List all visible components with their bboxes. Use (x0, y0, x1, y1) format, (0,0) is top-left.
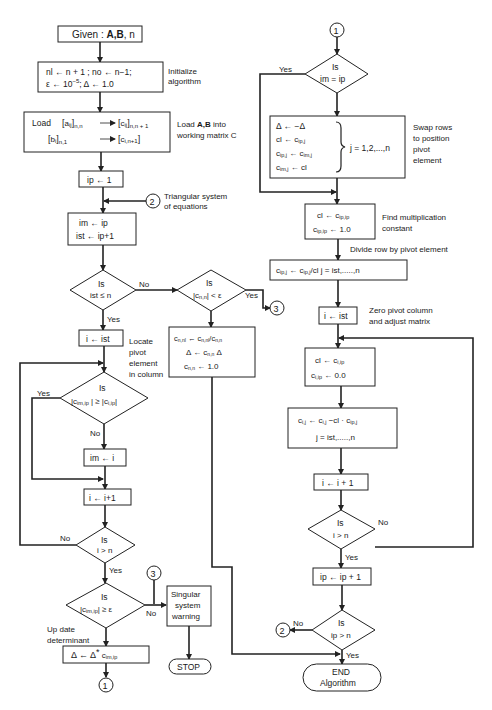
svg-text:2: 2 (280, 626, 285, 636)
svg-text:Is: Is (206, 278, 213, 288)
svg-text:Yes: Yes (345, 553, 358, 562)
svg-text:constant: constant (382, 224, 413, 233)
svg-text:Load: Load (32, 118, 51, 128)
svg-text:ip ← ip + 1: ip ← ip + 1 (320, 572, 361, 582)
svg-text:Yes: Yes (107, 315, 120, 324)
svg-text:ip ← 1: ip ← 1 (87, 175, 112, 185)
multiplication-note: Find multiplication (382, 213, 446, 222)
svg-text:Given : A,B, n: Given : A,B, n (72, 29, 135, 40)
svg-text:Is: Is (101, 592, 108, 602)
svg-text:Yes: Yes (109, 566, 122, 575)
load-matrix-box: Load [aij]n,n [cij]n,n + 1 [bi]n,1 [ci,n… (24, 112, 170, 152)
decision-ip-gt-n: Is ip > n (312, 610, 375, 650)
svg-text:j = 1,2,...,n: j = 1,2,...,n (349, 143, 390, 153)
svg-text:Yes: Yes (245, 291, 258, 300)
svg-text:No: No (293, 619, 304, 628)
zero-pivot-box: cl ← ci,ip ci,ip ← 0.0 (305, 348, 375, 386)
i-increment-right-box: i ← i + 1 (314, 474, 368, 490)
svg-text:No: No (60, 534, 71, 543)
svg-text:working matrix C: working matrix C (176, 131, 237, 140)
svg-text:determinant: determinant (47, 636, 90, 645)
connector-3-in: 3 (147, 566, 161, 580)
ip-init-box: ip ← 1 (79, 171, 123, 187)
multiplication-constant-box: cl ← cip,ip cip,ip ← 1.0 (305, 204, 375, 239)
svg-text:3: 3 (274, 304, 279, 314)
set-im-box: im ← ip ist ← ip+1 (68, 213, 136, 245)
svg-text:i ← i + 1: i ← i + 1 (322, 478, 354, 488)
i-ist-right-box: i ← ist (319, 307, 357, 324)
svg-text:pivot: pivot (129, 348, 147, 357)
decision-i-gt-n-left: Is i > n (76, 527, 135, 563)
svg-text:ci,j ← ci,j −cl · cip,j: ci,j ← ci,j −cl · cip,j (298, 416, 357, 425)
decision-pivot-compare: Is |cim,ip | ≥ |ci,ip| (60, 372, 148, 424)
svg-text:ε ← 10−5; Δ ← 1.0: ε ← 10−5; Δ ← 1.0 (46, 78, 114, 89)
initialize-box: nl ← n + 1 ; no ← n−1; ε ← 10−5; Δ ← 1.0 (38, 62, 163, 92)
svg-text:1: 1 (334, 26, 339, 36)
svg-text:Is: Is (99, 383, 106, 393)
decision-ist-le-n: Is ist ≤ n (70, 270, 136, 310)
load-note: Load A,B into (177, 120, 226, 129)
i-increment-box: i ← i+1 (84, 489, 131, 505)
svg-text:ist ≤ n: ist ≤ n (90, 291, 111, 300)
svg-text:i ← i+1: i ← i+1 (89, 493, 116, 503)
svg-text:cip,j ← cip,j/cl j = ist,...: cip,j ← cip,j/cl j = ist,.....,n (276, 266, 360, 275)
svg-text:Δ ← −Δ: Δ ← −Δ (276, 121, 305, 131)
connector-1-out: 1 (99, 678, 113, 692)
connector-3-out: 3 (270, 301, 284, 315)
svg-text:i ← ist: i ← ist (324, 311, 348, 321)
singular-warning-box: Singular system warning (167, 586, 211, 626)
svg-text:No: No (90, 429, 101, 438)
connector-2-in: 2 (146, 194, 160, 208)
svg-text:of equations: of equations (164, 202, 208, 211)
svg-text:pivot: pivot (413, 145, 431, 154)
svg-text:Is: Is (101, 535, 108, 545)
svg-text:ip > n: ip > n (331, 631, 351, 640)
svg-text:Yes: Yes (279, 65, 292, 74)
svg-text:2: 2 (150, 197, 155, 207)
update-note: Up date (47, 625, 76, 634)
svg-text:to position: to position (413, 134, 449, 143)
svg-text:Is: Is (98, 279, 105, 289)
locate-note: Locate (129, 337, 154, 346)
svg-text:nl ← n + 1 ; no ← n−1;: nl ← n + 1 ; no ← n−1; (46, 67, 132, 77)
stop-terminator: STOP (169, 659, 211, 674)
swap-note: Swap rows (413, 123, 452, 132)
ip-increment-box: ip ← ip + 1 (313, 568, 371, 585)
final-row-box: cn,nl ← cn,nl/cn,n Δ ← cn,n Δ cn,n ← 1.0 (169, 327, 255, 377)
svg-text:Is: Is (338, 618, 345, 628)
swap-rows-box: Δ ← −Δ cl ← cip,j cip,j ← cim,j cim,j ← … (270, 116, 405, 178)
zero-note: Zero pivot column (369, 306, 433, 315)
svg-text:element: element (413, 156, 442, 165)
triangular-note: Triangular system (164, 192, 228, 201)
svg-text:Yes: Yes (37, 389, 50, 398)
svg-text:Algorithm: Algorithm (320, 678, 356, 688)
svg-text:3: 3 (151, 569, 156, 579)
svg-text:END: END (332, 667, 350, 677)
i-ist-box: i ← ist (79, 330, 123, 346)
svg-text:No: No (139, 280, 150, 289)
svg-text:i > n: i > n (97, 546, 112, 555)
svg-text:i ← ist: i ← ist (86, 334, 110, 344)
svg-text:Singular: Singular (171, 590, 201, 599)
svg-text:system: system (175, 601, 201, 610)
end-terminator: END Algorithm (303, 664, 381, 691)
svg-text:|cn,n| < ε: |cn,n| < ε (193, 291, 222, 300)
svg-text:Is: Is (337, 518, 344, 528)
svg-text:im ← ip: im ← ip (79, 218, 108, 228)
svg-text:and adjust matrix: and adjust matrix (369, 317, 430, 326)
svg-text:No: No (146, 609, 157, 618)
svg-text:Is: Is (332, 62, 339, 72)
svg-text:im = ip: im = ip (320, 74, 346, 84)
svg-text:Δ ← cn,n Δ: Δ ← cn,n Δ (186, 348, 223, 357)
svg-text:warning: warning (171, 612, 200, 621)
connector-1-in: 1 (330, 23, 344, 37)
svg-text:algorithm: algorithm (168, 77, 201, 86)
svg-text:1: 1 (103, 681, 108, 691)
initialize-note: Initialize (168, 67, 197, 76)
flowchart: Given : A,B, n nl ← n + 1 ; no ← n−1; ε … (0, 0, 492, 710)
divide-row-box: cip,j ← cip,j/cl j = ist,.....,n (270, 260, 407, 280)
im-i-box: im ← i (84, 449, 126, 466)
divide-note: Divide row by pivot element (350, 245, 449, 254)
svg-text:ist ← ip+1: ist ← ip+1 (76, 231, 114, 241)
decision-im-eq-ip: Is im = ip (305, 54, 368, 93)
